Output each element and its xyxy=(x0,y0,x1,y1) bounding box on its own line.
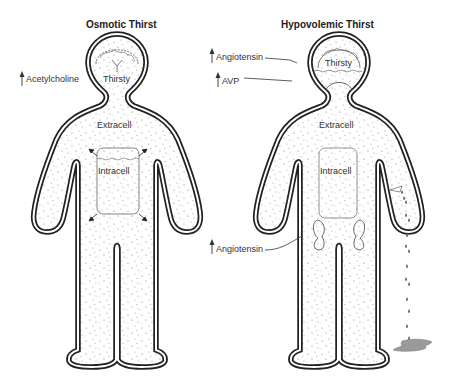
annotation-angiotensin-kidney: Angiotensin xyxy=(216,244,263,254)
annotation-acetylcholine: Acetylcholine xyxy=(26,74,79,84)
annotation-avp: AVP xyxy=(222,76,239,86)
arrow-up-icon xyxy=(216,72,221,87)
extracellular-label: Extracell xyxy=(319,120,354,130)
hypovolemic-figure xyxy=(256,34,423,367)
arrow-up-icon xyxy=(20,71,25,86)
intracellular-label: Intracell xyxy=(320,166,352,176)
arrow-up-icon xyxy=(210,239,215,254)
figure-title-osmotic: Osmotic Thirst xyxy=(86,19,157,30)
intracellular-label: Intracell xyxy=(98,166,130,176)
annotation-angiotensin-brain: Angiotensin xyxy=(216,52,263,62)
figure-title-hypovolemic: Hypovolemic Thirst xyxy=(281,19,374,30)
leader-angiotensin-kidney xyxy=(265,236,302,250)
leader-angiotensin-brain xyxy=(265,58,297,63)
leader-avp xyxy=(244,78,292,81)
brain-label: Thirsty xyxy=(103,74,130,84)
thirst-diagram: Osmotic Thirst Hypovolemic Thirst Thirst… xyxy=(0,0,455,380)
blood-puddle-icon xyxy=(393,339,432,351)
extracellular-label: Extracell xyxy=(97,120,132,130)
brain-label: Thirsty xyxy=(325,58,352,68)
arrow-up-icon xyxy=(210,48,215,63)
